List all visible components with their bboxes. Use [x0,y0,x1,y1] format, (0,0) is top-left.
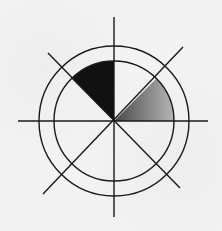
polar-diagram [0,0,222,231]
gradient-sector [114,79,174,121]
black-sector [72,61,114,121]
diagram-canvas [0,0,222,231]
